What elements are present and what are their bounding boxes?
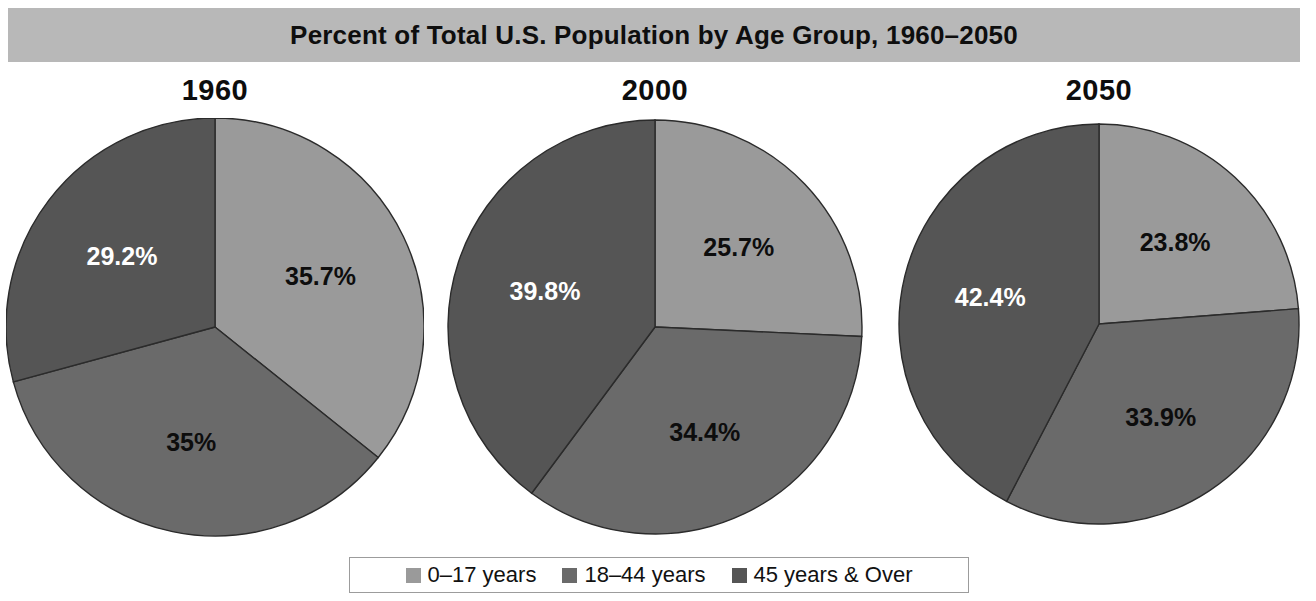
pie-svg-2050 xyxy=(890,118,1308,542)
legend-item-18-44[interactable]: 18–44 years xyxy=(562,562,705,588)
pie-svg-2000 xyxy=(446,118,864,542)
pie-slice xyxy=(655,120,862,336)
pie-slice xyxy=(1099,124,1298,324)
legend-label-18-44: 18–44 years xyxy=(584,562,705,588)
pie-slice-label: 33.9% xyxy=(1125,403,1196,432)
pie-panel-1960: 1960 35.7%35%29.2% xyxy=(6,66,424,552)
pie-slice-label: 34.4% xyxy=(669,417,740,446)
pie-slice-label: 39.8% xyxy=(509,276,580,305)
pie-title-2050: 2050 xyxy=(890,74,1308,107)
pie-svg-1960 xyxy=(6,118,424,542)
pie-slice-label: 29.2% xyxy=(87,241,158,270)
chart-title-bar: Percent of Total U.S. Population by Age … xyxy=(8,8,1300,62)
page-title: Percent of Total U.S. Population by Age … xyxy=(290,20,1018,51)
square-swatch-icon xyxy=(562,568,577,583)
pie-slice-label: 35.7% xyxy=(285,262,356,291)
chart-legend: 0–17 years 18–44 years 45 years & Over xyxy=(349,557,969,593)
pie-slice-label: 35% xyxy=(166,427,216,456)
pie-chart-group: 1960 35.7%35%29.2% 2000 25.7%34.4%39.8% … xyxy=(0,66,1316,552)
legend-label-0-17: 0–17 years xyxy=(428,562,537,588)
pie-panel-2000: 2000 25.7%34.4%39.8% xyxy=(446,66,864,552)
legend-label-45-over: 45 years & Over xyxy=(754,562,913,588)
pie-slice-label: 42.4% xyxy=(955,283,1026,312)
pie-title-1960: 1960 xyxy=(6,74,424,107)
pie-panel-2050: 2050 23.8%33.9%42.4% xyxy=(890,66,1308,552)
square-swatch-icon xyxy=(732,568,747,583)
square-swatch-icon xyxy=(406,568,421,583)
pie-slice-label: 23.8% xyxy=(1140,227,1211,256)
pie-title-2000: 2000 xyxy=(446,74,864,107)
legend-item-45-over[interactable]: 45 years & Over xyxy=(732,562,913,588)
pie-slice-label: 25.7% xyxy=(703,232,774,261)
legend-item-0-17[interactable]: 0–17 years xyxy=(406,562,537,588)
